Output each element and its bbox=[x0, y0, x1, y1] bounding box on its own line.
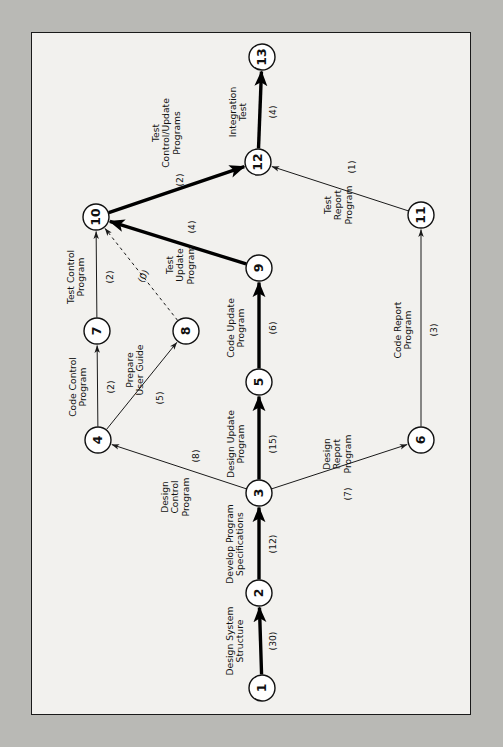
edge-duration-4-to-7: (2) bbox=[106, 380, 115, 393]
edge-label-3-to-6: DesignReportProgram bbox=[322, 435, 353, 474]
edge-label-1-to-2: Design SystemStructure bbox=[225, 607, 246, 676]
edge-duration-12-to-13: (4) bbox=[268, 105, 277, 118]
node-label-4: 4 bbox=[92, 436, 105, 445]
edge-label-11-to-12: TestReportProgram bbox=[323, 186, 354, 225]
node-label-5: 5 bbox=[253, 378, 266, 387]
edge-duration-4-to-8: (5) bbox=[155, 391, 164, 404]
node-label-2: 2 bbox=[253, 589, 266, 598]
node-label-12: 12 bbox=[252, 153, 265, 170]
node-label-9: 9 bbox=[253, 264, 266, 273]
edge-label-9-to-10: TestUpdateProgram bbox=[165, 246, 196, 285]
edge-duration-6-to-11: (3) bbox=[429, 323, 438, 336]
node-label-8: 8 bbox=[180, 327, 193, 336]
edge-label-5-to-9: Code UpdateProgram bbox=[226, 298, 247, 358]
edge-7-to-10 bbox=[96, 231, 97, 317]
edge-1-to-2 bbox=[259, 607, 261, 674]
edge-label-4-to-8: PrepareUser Guide bbox=[125, 345, 146, 396]
edge-label-3-to-5: Design UpdateProgram bbox=[226, 410, 247, 478]
edge-label-2-to-3: Develop ProgramSpecifications bbox=[225, 504, 246, 584]
edge-duration-1-to-2: (30) bbox=[268, 632, 277, 651]
edge-label-4-to-7: Code ControlProgram bbox=[68, 357, 89, 417]
edge-4-to-7 bbox=[97, 345, 98, 426]
node-label-1: 1 bbox=[256, 684, 269, 693]
node-label-13: 13 bbox=[256, 48, 269, 65]
node-label-3: 3 bbox=[253, 489, 266, 498]
edge-duration-3-to-4: (8) bbox=[191, 449, 200, 462]
edge-duration-11-to-12: (1) bbox=[347, 160, 356, 173]
edge-label-6-to-11: Code ReportProgram bbox=[393, 302, 414, 359]
edge-label-12-to-13: IntegrationTest bbox=[228, 87, 249, 138]
edge-duration-10-to-12: (2) bbox=[175, 173, 184, 186]
edge-duration-9-to-10: (4) bbox=[187, 220, 196, 233]
edge-duration-2-to-3: (12) bbox=[268, 535, 277, 554]
edge-label-10-to-12: TestControl/UpdatePrograms bbox=[151, 98, 182, 168]
node-label-6: 6 bbox=[415, 436, 428, 445]
edge-12-to-13 bbox=[259, 71, 262, 148]
node-label-10: 10 bbox=[90, 208, 103, 225]
edge-label-7-to-10: Test ControlProgram bbox=[66, 250, 87, 304]
edge-label-3-to-4: DesignControlProgram bbox=[160, 478, 191, 517]
edge-duration-3-to-6: (7) bbox=[343, 487, 352, 500]
node-label-7: 7 bbox=[91, 327, 104, 336]
edge-duration-3-to-5: (15) bbox=[268, 435, 277, 454]
edge-duration-7-to-10: (2) bbox=[105, 270, 114, 283]
node-label-11: 11 bbox=[415, 206, 428, 223]
diagram-page: 12345678910111213Design SystemStructure(… bbox=[0, 0, 503, 747]
edge-duration-5-to-9: (6) bbox=[268, 321, 277, 334]
